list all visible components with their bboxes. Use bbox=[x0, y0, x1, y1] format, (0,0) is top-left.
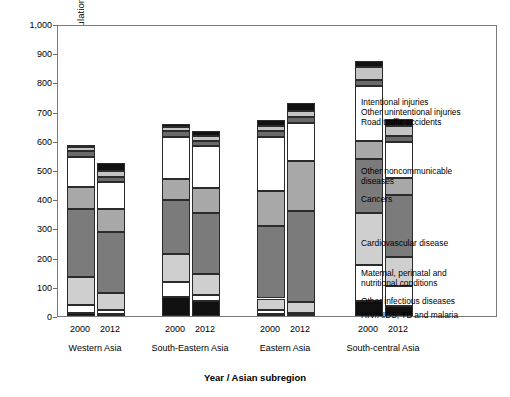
legend-item: Other infectious diseases bbox=[361, 296, 506, 306]
bar-segment[interactable] bbox=[162, 131, 190, 137]
bar-segment[interactable] bbox=[355, 80, 383, 86]
bar-segment[interactable] bbox=[97, 171, 125, 176]
bar-segment[interactable] bbox=[162, 200, 190, 253]
bar-segment[interactable] bbox=[192, 301, 220, 316]
bar-segment[interactable] bbox=[192, 295, 220, 301]
bar-segment[interactable] bbox=[162, 137, 190, 179]
bar-segment[interactable] bbox=[287, 161, 315, 211]
bar-segment[interactable] bbox=[287, 111, 315, 117]
legend-item: Cardiovascular disease bbox=[361, 238, 506, 248]
y-axis-tick-label: 800 bbox=[0, 79, 52, 88]
bar-segment[interactable] bbox=[385, 136, 413, 142]
bar-segment[interactable] bbox=[97, 163, 125, 171]
legend-item: Other noncommunicable diseases bbox=[361, 166, 506, 186]
legend-item: Cancers bbox=[361, 194, 506, 204]
x-axis-year-label: 2000 bbox=[358, 324, 378, 334]
x-axis-title: Year / Asian subregion bbox=[0, 372, 510, 383]
x-axis-group-label: South-central Asia bbox=[346, 343, 419, 353]
bar-segment[interactable] bbox=[192, 213, 220, 274]
bar-segment[interactable] bbox=[162, 127, 190, 131]
bar-segment[interactable] bbox=[287, 302, 315, 313]
legend-item: Intentional injuries bbox=[361, 97, 506, 107]
y-axis-tick-label: 300 bbox=[0, 225, 52, 234]
bar-segment[interactable] bbox=[97, 232, 125, 294]
x-axis-year-label: 2000 bbox=[70, 324, 90, 334]
y-axis-tick-mark bbox=[53, 317, 57, 318]
y-axis-tick-label: 900 bbox=[0, 50, 52, 59]
bar-stack[interactable] bbox=[192, 131, 220, 316]
bar-segment[interactable] bbox=[287, 103, 315, 111]
bar-segment[interactable] bbox=[67, 209, 95, 277]
bar-segment[interactable] bbox=[192, 131, 220, 136]
legend-item: Road traffic accidents bbox=[361, 117, 506, 127]
bar-segment[interactable] bbox=[257, 126, 285, 131]
x-axis-year-label: 2012 bbox=[195, 324, 215, 334]
bar-segment[interactable] bbox=[67, 147, 95, 151]
bar-segment[interactable] bbox=[162, 124, 190, 127]
bar-segment[interactable] bbox=[192, 274, 220, 295]
bar-segment[interactable] bbox=[97, 314, 125, 316]
y-axis-tick-label: 600 bbox=[0, 137, 52, 146]
bar-stack[interactable] bbox=[257, 120, 285, 316]
bar-segment[interactable] bbox=[192, 136, 220, 141]
legend-item: Maternal, perinatal and nutritional cond… bbox=[361, 268, 506, 288]
bar-segment[interactable] bbox=[287, 313, 315, 315]
bar-segment[interactable] bbox=[257, 299, 285, 311]
x-axis-group-label: Eastern Asia bbox=[260, 343, 311, 353]
bar-segment[interactable] bbox=[192, 188, 220, 213]
bar-segment[interactable] bbox=[67, 313, 95, 316]
bar-segment[interactable] bbox=[162, 179, 190, 200]
y-axis-tick-label: 1,000 bbox=[0, 21, 52, 30]
bar-segment[interactable] bbox=[355, 67, 383, 80]
x-axis-year-label: 2000 bbox=[260, 324, 280, 334]
bar-stack[interactable] bbox=[67, 145, 95, 316]
bar-segment[interactable] bbox=[97, 177, 125, 182]
bar-segment[interactable] bbox=[287, 117, 315, 123]
bar-segment[interactable] bbox=[67, 187, 95, 209]
bar-segment[interactable] bbox=[257, 314, 285, 316]
legend-item: HIV/AIDS, TB and malaria bbox=[361, 310, 506, 320]
legend-item: Other unintentional injuries bbox=[361, 107, 506, 117]
bar-segment[interactable] bbox=[257, 191, 285, 226]
bar-segment[interactable] bbox=[355, 61, 383, 67]
bar-segment[interactable] bbox=[192, 141, 220, 146]
x-axis-group-label: Western Asia bbox=[69, 343, 122, 353]
x-axis-year-label: 2000 bbox=[165, 324, 185, 334]
bar-segment[interactable] bbox=[257, 226, 285, 298]
bar-segment[interactable] bbox=[162, 282, 190, 297]
bar-segment[interactable] bbox=[97, 209, 125, 232]
bar-stack[interactable] bbox=[162, 124, 190, 316]
bar-segment[interactable] bbox=[257, 131, 285, 137]
x-axis-year-label: 2012 bbox=[290, 324, 310, 334]
bar-segment[interactable] bbox=[67, 145, 95, 148]
bar-segment[interactable] bbox=[355, 141, 383, 159]
bar-segment[interactable] bbox=[287, 123, 315, 161]
bar-segment[interactable] bbox=[257, 120, 285, 126]
y-axis-tick-label: 100 bbox=[0, 283, 52, 292]
bar-segment[interactable] bbox=[385, 126, 413, 137]
bar-segment[interactable] bbox=[97, 293, 125, 310]
bar-segment[interactable] bbox=[257, 310, 285, 314]
bar-segment[interactable] bbox=[97, 310, 125, 314]
x-axis-year-label: 2012 bbox=[388, 324, 408, 334]
y-axis-tick-label: 700 bbox=[0, 108, 52, 117]
chart-container: Death rate per 100,000 population 010020… bbox=[0, 0, 510, 397]
bar-segment[interactable] bbox=[67, 151, 95, 156]
y-axis-tick-label: 500 bbox=[0, 167, 52, 176]
bar-segment[interactable] bbox=[67, 277, 95, 305]
bar-segment[interactable] bbox=[257, 137, 285, 191]
y-axis-tick-label: 0 bbox=[0, 313, 52, 322]
bar-stack[interactable] bbox=[287, 103, 315, 316]
y-axis-tick-label: 400 bbox=[0, 196, 52, 205]
bar-segment[interactable] bbox=[67, 157, 95, 187]
x-axis-group-label: South-Eastern Asia bbox=[151, 343, 228, 353]
bar-segment[interactable] bbox=[162, 297, 190, 316]
y-axis-tick-label: 200 bbox=[0, 254, 52, 263]
bar-segment[interactable] bbox=[287, 211, 315, 302]
bar-segment[interactable] bbox=[67, 305, 95, 313]
bar-segment[interactable] bbox=[192, 146, 220, 188]
bar-stack[interactable] bbox=[97, 163, 125, 316]
x-axis-year-label: 2012 bbox=[100, 324, 120, 334]
bar-segment[interactable] bbox=[162, 254, 190, 282]
bar-segment[interactable] bbox=[97, 182, 125, 209]
